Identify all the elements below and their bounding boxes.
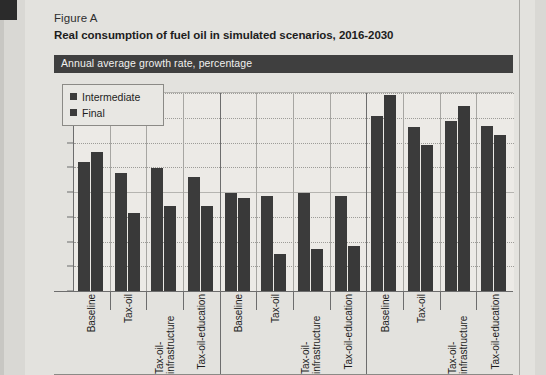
x-axis-label-text: Tax-oil-​infrastructure bbox=[447, 294, 469, 374]
bar-inter bbox=[298, 193, 310, 291]
bar-inter bbox=[261, 196, 273, 291]
bar-inter bbox=[115, 173, 127, 291]
bar-final bbox=[128, 213, 140, 291]
x-label-separator bbox=[366, 292, 367, 375]
subtitle-bar-text: Annual average growth rate, percentage bbox=[61, 57, 252, 69]
category-separator bbox=[183, 93, 184, 291]
bar-inter bbox=[225, 193, 237, 291]
x-label-separator bbox=[220, 292, 221, 375]
group-separator bbox=[220, 93, 221, 291]
bar-final bbox=[274, 254, 286, 291]
category-separator bbox=[330, 93, 331, 291]
bar-group bbox=[293, 93, 330, 291]
bar-final bbox=[238, 198, 250, 291]
bar-inter bbox=[78, 162, 90, 291]
x-axis-label: Baseline bbox=[73, 292, 110, 375]
x-label-separator bbox=[110, 292, 111, 310]
x-axis-label-text: Tax-oil bbox=[416, 294, 427, 323]
x-axis-label: Tax-oil-education bbox=[183, 292, 220, 375]
x-label-separator bbox=[293, 292, 294, 310]
x-axis-label: Tax-oil-education bbox=[330, 292, 367, 375]
legend-label: Final bbox=[82, 107, 105, 119]
category-separator bbox=[476, 93, 477, 291]
bar-inter bbox=[335, 196, 347, 291]
figure-page: Figure A Real consumption of fuel oil in… bbox=[0, 0, 546, 375]
legend-item-final: Final bbox=[70, 107, 105, 119]
bar-group bbox=[183, 93, 220, 291]
bar-final bbox=[311, 249, 323, 291]
x-axis-label: Tax-oil bbox=[403, 292, 440, 375]
legend-swatch-icon bbox=[70, 93, 77, 100]
x-axis-label: Tax-oil bbox=[256, 292, 293, 375]
group-separator bbox=[366, 93, 367, 291]
bar-inter bbox=[188, 177, 200, 291]
x-axis-label-text: Tax-oil-education bbox=[489, 294, 500, 370]
x-axis-label: Baseline bbox=[366, 292, 403, 375]
x-axis-label: Tax-oil-​infrastructure bbox=[440, 292, 477, 375]
x-axis-label: Baseline bbox=[220, 292, 257, 375]
x-label-separator bbox=[256, 292, 257, 310]
category-separator bbox=[256, 93, 257, 291]
bar-final bbox=[91, 152, 103, 291]
legend-item-intermediate: Intermediate bbox=[70, 91, 140, 103]
figure-title: Real consumption of fuel oil in simulate… bbox=[54, 29, 393, 41]
bar-final bbox=[164, 206, 176, 291]
bar-final bbox=[494, 135, 506, 291]
x-axis-label: Tax-oil-education bbox=[476, 292, 513, 375]
bar-inter bbox=[445, 121, 457, 291]
bar-group bbox=[440, 93, 477, 291]
bar-inter bbox=[371, 116, 383, 291]
x-axis-label-text: Tax-oil-​infrastructure bbox=[154, 294, 176, 374]
x-axis-label-text: Tax-oil-education bbox=[342, 294, 353, 370]
legend: Intermediate Final bbox=[62, 84, 164, 126]
x-axis-label-text: Baseline bbox=[86, 294, 97, 332]
bar-group bbox=[476, 93, 513, 291]
x-label-separator bbox=[330, 292, 331, 310]
x-label-separator bbox=[440, 292, 441, 310]
x-axis-labels: BaselineTax-oilTax-oil-​infrastructureTa… bbox=[73, 292, 513, 375]
x-axis-label-text: Tax-oil-​infrastructure bbox=[300, 294, 322, 374]
category-separator bbox=[403, 93, 404, 291]
bar-group bbox=[403, 93, 440, 291]
x-label-separator bbox=[146, 292, 147, 310]
x-axis-label: Tax-oil bbox=[110, 292, 147, 375]
legend-swatch-icon bbox=[70, 109, 77, 116]
bar-final bbox=[384, 95, 396, 292]
x-label-separator bbox=[403, 292, 404, 310]
bar-group bbox=[366, 93, 403, 291]
bar-group bbox=[220, 93, 257, 291]
bar-group bbox=[330, 93, 367, 291]
category-separator bbox=[440, 93, 441, 291]
category-separator bbox=[293, 93, 294, 291]
x-axis-label-text: Tax-oil bbox=[269, 294, 280, 323]
x-axis-label: Tax-oil-​infrastructure bbox=[146, 292, 183, 375]
x-axis-label: Tax-oil-​infrastructure bbox=[293, 292, 330, 375]
x-axis-label-text: Baseline bbox=[379, 294, 390, 332]
x-label-separator bbox=[476, 292, 477, 310]
bar-inter bbox=[408, 127, 420, 291]
panel-right-rule bbox=[519, 0, 520, 375]
bar-final bbox=[458, 106, 470, 291]
subtitle-bar: Annual average growth rate, percentage bbox=[54, 55, 513, 73]
bar-final bbox=[201, 206, 213, 291]
x-label-separator bbox=[183, 292, 184, 310]
x-axis-label-text: Tax-oil-education bbox=[196, 294, 207, 370]
bar-group bbox=[256, 93, 293, 291]
x-axis-label-text: Baseline bbox=[232, 294, 243, 332]
y-axis: 0.001.002.003.004.005.006.007.008.00 bbox=[0, 0, 73, 375]
x-axis-label-text: Tax-oil bbox=[122, 294, 133, 323]
bar-final bbox=[348, 246, 360, 291]
bar-inter bbox=[481, 126, 493, 291]
legend-label: Intermediate bbox=[82, 91, 140, 103]
bar-inter bbox=[151, 168, 163, 291]
bar-final bbox=[421, 145, 433, 291]
